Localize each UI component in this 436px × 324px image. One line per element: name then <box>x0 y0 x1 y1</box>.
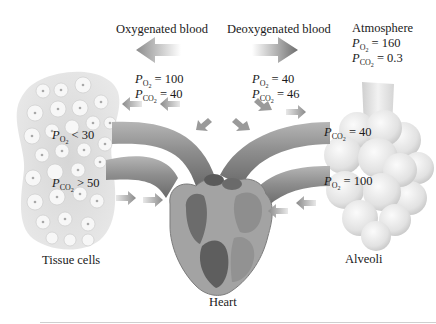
atmosphere-po2: PO2 = 160 <box>352 36 400 51</box>
tissue-cells-label: Tissue cells <box>42 253 100 267</box>
arrow-to-alveoli <box>286 105 306 119</box>
alveoli-pco2: PCO2 = 40 <box>324 125 372 140</box>
oxygenated-po2: PO2 = 100 <box>135 72 183 87</box>
arrow-from-tissue-2 <box>143 193 163 207</box>
heart-label: Heart <box>209 295 237 309</box>
oxygenated-blood-label: Oxygenated blood <box>116 22 208 36</box>
bottom-divider <box>40 322 436 323</box>
alveoli-po2: PO2 = 100 <box>324 174 372 189</box>
deoxygenated-po2: PO2 = 40 <box>252 72 294 87</box>
deoxygenated-blood-label: Deoxygenated blood <box>227 22 331 36</box>
heart-illustration <box>170 174 272 295</box>
arrow-from-alveoli-2 <box>296 196 316 210</box>
oxygenated-pco2: PCO2 = 40 <box>135 87 183 102</box>
arrow-up-right-1 <box>232 118 250 131</box>
alveoli-label: Alveoli <box>345 252 383 266</box>
atmosphere-pco2: PCO2 = 0.3 <box>352 51 403 66</box>
tissue-cells-illustration <box>17 72 120 250</box>
arrow-up-left <box>196 118 212 131</box>
deoxygenated-flow-arrow <box>252 37 298 63</box>
arrow-from-tissue-1 <box>116 191 136 205</box>
oxygenated-flow-arrow <box>136 37 181 63</box>
tissue-po2: PO2 < 30 <box>52 128 94 143</box>
tissue-pco2: PCO2 > 50 <box>52 176 100 191</box>
deoxygenated-pco2: PCO2 = 46 <box>252 87 300 102</box>
atmosphere-label: Atmosphere <box>352 21 413 35</box>
